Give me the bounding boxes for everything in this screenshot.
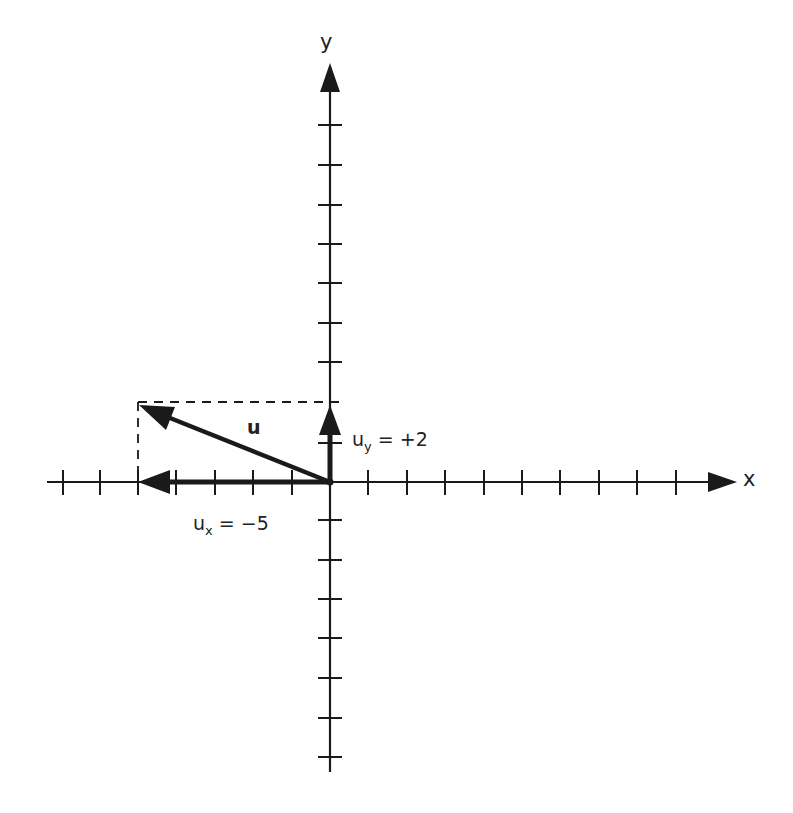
ux-component-label: ux = −5 (193, 514, 269, 537)
uy-component-label: uy = +2 (352, 430, 428, 453)
y-axis-label: y (320, 32, 332, 53)
x-axis-arrowhead-icon (708, 472, 737, 492)
vector-u (139, 405, 330, 482)
component-vector-ux (138, 470, 330, 494)
uy-base: u (352, 428, 364, 450)
uy-arrowhead-icon (319, 405, 341, 435)
vector-diagram (0, 0, 793, 813)
vector-u-label: u (247, 418, 261, 437)
ux-base: u (193, 512, 205, 534)
ux-subscript: x (205, 523, 213, 538)
x-axis-label: x (743, 469, 755, 490)
u-arrowhead-icon (139, 405, 175, 430)
uy-subscript: y (364, 439, 372, 454)
y-axis-arrowhead-icon (320, 63, 340, 92)
ux-arrowhead-icon (138, 470, 170, 494)
origin-point (327, 479, 334, 486)
ux-value: = −5 (213, 512, 269, 534)
uy-value: = +2 (372, 428, 428, 450)
